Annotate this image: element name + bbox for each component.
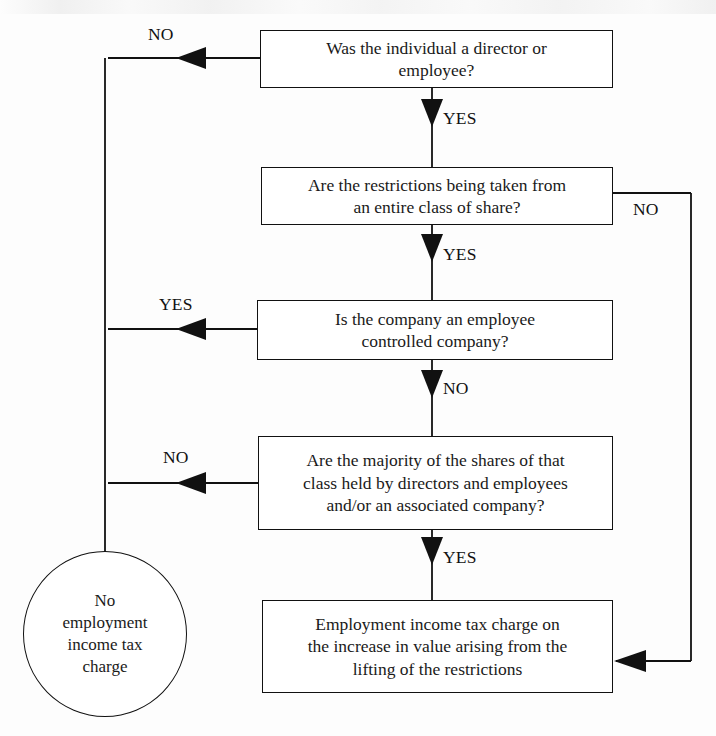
arrowhead-q1-no (176, 47, 206, 69)
node-q4-line1: Are the majority of the shares of that (306, 450, 564, 470)
arrowhead-q4-yes (421, 537, 443, 565)
node-q1-line2: employee? (399, 60, 475, 80)
node-outcome-charge-line2: the increase in value arising from the (308, 636, 567, 656)
arrowhead-q1-yes (421, 99, 443, 127)
node-q1-line1: Was the individual a director or (326, 38, 547, 58)
edge-label-q4-yes: YES (443, 547, 477, 568)
node-outcome-charge-text: Employment income tax charge on the incr… (271, 613, 604, 680)
edge-label-q4-no: NO (163, 447, 189, 468)
node-outcome-no-charge-line2: employment (63, 613, 148, 632)
arrowhead-q2-no-into-outcome (614, 650, 646, 672)
arrowhead-q3-no (421, 370, 443, 398)
node-outcome-no-charge-line3: income tax (67, 635, 142, 654)
node-q2-entire-class-of-share[interactable]: Are the restrictions being taken from an… (261, 167, 613, 225)
node-outcome-no-charge-line4: charge (82, 657, 127, 676)
arrowhead-q2-yes (421, 234, 443, 262)
flowchart-page: Was the individual a director or employe… (0, 0, 716, 736)
edge-label-q1-yes: YES (443, 108, 477, 129)
node-outcome-no-charge-line1: No (95, 591, 116, 610)
edge-label-q3-yes: YES (159, 294, 193, 315)
node-q3-line1: Is the company an employee (335, 309, 535, 329)
node-q4-majority-of-shares[interactable]: Are the majority of the shares of that c… (258, 436, 613, 530)
node-q4-line2: class held by directors and employees (303, 473, 568, 493)
arrowhead-q4-no (176, 472, 206, 494)
node-outcome-employment-income-tax-charge[interactable]: Employment income tax charge on the incr… (262, 600, 613, 693)
node-q1-text: Was the individual a director or employe… (269, 37, 604, 82)
node-q2-text: Are the restrictions being taken from an… (270, 174, 604, 219)
node-q3-employee-controlled-company[interactable]: Is the company an employee controlled co… (257, 300, 613, 360)
node-q3-text: Is the company an employee controlled co… (266, 308, 604, 353)
node-q1-director-or-employee[interactable]: Was the individual a director or employe… (260, 30, 613, 88)
node-q2-line1: Are the restrictions being taken from (308, 175, 566, 195)
node-q4-text: Are the majority of the shares of that c… (267, 449, 604, 516)
node-outcome-no-employment-income-tax-charge[interactable]: No employment income tax charge (23, 551, 187, 717)
edge-label-q2-no: NO (633, 199, 659, 220)
edge-label-q2-yes: YES (443, 244, 477, 265)
node-q3-line2: controlled company? (361, 331, 508, 351)
node-q2-line2: an entire class of share? (353, 197, 520, 217)
node-q4-line3: and/or an associated company? (326, 495, 544, 515)
node-outcome-charge-line1: Employment income tax charge on (315, 614, 560, 634)
arrowhead-q3-yes (176, 318, 206, 340)
node-outcome-charge-line3: lifting of the restrictions (353, 659, 523, 679)
edge-label-q3-no: NO (443, 378, 469, 399)
node-outcome-no-charge-text: No employment income tax charge (63, 590, 148, 678)
edge-label-q1-no: NO (148, 24, 174, 45)
